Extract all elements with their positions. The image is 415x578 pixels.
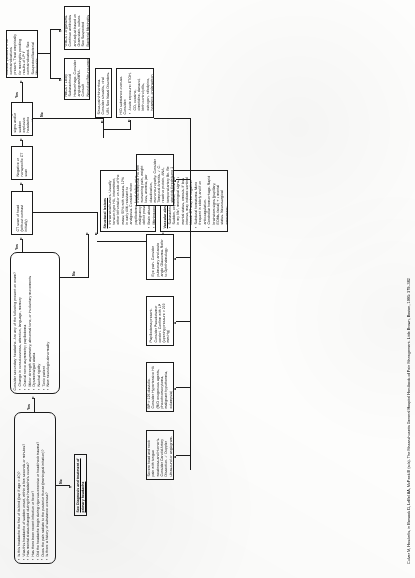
connector-meningeal-no (33, 118, 59, 119)
main-right-bus (190, 118, 191, 470)
primary-headache-link-text: See Diagnosis and treatment of primary h… (76, 458, 85, 513)
arrowhead-down (59, 79, 62, 81)
lumbar-puncture-box: Lumbar puncture if no contraindications … (6, 30, 38, 78)
figure-citation: Culver M, Hasderlis, in Borsook D, LeBel… (407, 8, 411, 564)
connector-ct-to-negative (22, 184, 23, 191)
structural-lesions-title: Structural lesions (103, 174, 107, 229)
secondary-exam-item: Motor strength asymmetry, abnormal tone,… (28, 256, 32, 387)
carotid-dissection-box: Severe head and neck pain with tongue we… (146, 430, 174, 480)
ct-scan-text: CT scan of head (without contrast initia… (16, 195, 29, 232)
branch-label-yes: Yes (27, 404, 31, 410)
substance-overuse-item: Acute exposure: ETOH, CO, cocaine, cimet… (128, 72, 154, 111)
connector-no-bus (59, 118, 103, 119)
ct-scan-box: CT scan of head (without contrast initia… (11, 191, 33, 235)
secondary-exam-item: Change in consciousness, attention, lang… (18, 256, 22, 387)
main-right-bus-riser (154, 118, 191, 119)
branch-label-yes: Yes (15, 92, 19, 98)
substance-overuse-title: H/O substance overuse. Consider: (119, 72, 128, 115)
branch-label-no: No (72, 271, 76, 276)
red-flag-item: Did the headache begin during vigorous e… (36, 416, 40, 557)
connector-ct-findings-bus-h (97, 212, 98, 234)
connector-lp-split-h (50, 29, 51, 79)
arrowhead-down (69, 486, 72, 488)
flowchart-canvas: Is this headache the first of its kind (… (0, 0, 415, 578)
wbcs-meningitis-box: WBCs ↓ organisms. Continue antibiotics a… (64, 6, 90, 50)
hypertensive-headache-text: BP > 125 diastolic. Consider Hypertensiv… (147, 366, 173, 409)
branch-label-no: No (40, 112, 44, 117)
ct-negative-text: Negative or nonspecific CT scan (16, 150, 29, 177)
substance-overuse-box: H/O substance overuse. Consider: Acute e… (116, 68, 154, 118)
red-flag-item: Was this headache of sudden onset, withi… (22, 416, 26, 557)
red-flag-item: Has mental status changed during the hea… (26, 416, 30, 557)
carotid-dissection-text: Severe head and neck pain with tongue we… (147, 434, 173, 477)
secondary-exam-item: Cranial nerve asymmetry; papilledema (23, 256, 27, 387)
connector-secondary-yes (22, 239, 23, 252)
meningeal-signs-text: Are meningeal signs and/or sudden explos… (11, 106, 33, 133)
arrowhead-right (20, 80, 22, 83)
papilledema-box: Papilledema present. Consider Pseudotumo… (146, 296, 174, 346)
meningeal-signs-decision: Are meningeal signs and/or sudden explos… (11, 102, 33, 136)
arrowhead-right (20, 182, 22, 185)
red-flag-item: Has there been recent infection or fever… (31, 416, 35, 557)
riser-carotid (176, 455, 190, 456)
glaucoma-text: Eye pain. Consider pulmonary and acute a… (151, 238, 168, 277)
sinus-pain-text: Sinus pain/rhinorrhea. Consider sinusiti… (97, 72, 110, 115)
scan-grain-overlay (0, 0, 415, 578)
hypertensive-headache-box: BP > 125 diastolic. Consider Hypertensiv… (146, 362, 174, 412)
secondary-exam-item: Dysmetria/gait ataxia (32, 256, 36, 387)
rbcs-sah-text: RBCs ↑ Likely Subarachnoid Hemorrhage. C… (64, 58, 90, 97)
connector-redflags-to-primary (56, 485, 70, 486)
wbcs-meningitis-text: WBCs ↓ organisms. Continue antibiotics a… (64, 10, 90, 47)
sinus-pain-box: Sinus pain/rhinorrhea. Consider sinusiti… (95, 68, 112, 118)
connector-secondary-no (60, 277, 88, 278)
temporal-arteritis-text: Age >60 w/ constant unilateral frontal-o… (136, 158, 174, 203)
vascular-item: Subdural hematoma. More frequent in elde… (194, 174, 207, 225)
vascular-item: Cerebellar hemorrhage. Rapid brainstem s… (207, 174, 228, 225)
connector-negative-to-meningeal (22, 140, 23, 146)
secondary-headache-title: Consider secondary headache. Are any of … (13, 256, 17, 391)
arrowhead-right (101, 120, 103, 123)
riser-papilledema (176, 321, 190, 322)
arrowhead-right (86, 232, 88, 235)
papilledema-text: Papilledema present. Consider Pseudotumo… (149, 300, 171, 343)
arrowhead-right (95, 232, 97, 235)
connector-secondary-no-h (88, 234, 89, 278)
riser-glaucoma (176, 257, 190, 258)
arrowhead-right (128, 119, 130, 122)
red-flag-item: Is there a history of substance overuse? (45, 416, 49, 557)
red-flag-item: Is this headache the first of its kind (… (17, 416, 21, 557)
connector-ct-findings-bus (33, 212, 97, 213)
secondary-exam-item: Nuchal rigidity (37, 256, 41, 387)
secondary-exam-item: Toxic patient (42, 256, 46, 387)
red-flags-question-box: Is this headache the first of its kind (… (14, 412, 56, 564)
glaucoma-box: Eye pain. Consider pulmonary and acute a… (146, 234, 174, 280)
connector-no-bus-substance (103, 129, 131, 130)
riser-hypertensive (176, 387, 190, 388)
connector-meningeal-yes (22, 82, 23, 102)
connector-lp-split (38, 53, 50, 54)
temporal-arteritis-box: Age >60 w/ constant unilateral frontal-o… (136, 154, 174, 206)
connector-redflags-to-secondary (34, 398, 35, 412)
red-flag-item: Does the pain radiate to the posterior t… (41, 416, 45, 557)
lumbar-puncture-text: Lumbar puncture if no contraindications … (6, 34, 38, 75)
arrowhead-down (59, 30, 62, 32)
riser-temporal-arteritis (176, 179, 190, 180)
arrowhead-right (20, 138, 22, 141)
arrowhead-right (20, 237, 22, 240)
primary-headache-link[interactable]: See Diagnosis and treatment of primary h… (74, 454, 87, 516)
branch-label-no: No (59, 479, 63, 484)
rotated-page-canvas: Is this headache the first of its kind (… (0, 0, 415, 578)
secondary-headache-exam-box: Consider secondary headache. Are any of … (10, 252, 60, 394)
branch-label-yes: Yes (15, 244, 19, 250)
secondary-exam-item: New neurologic abnormality (46, 256, 50, 387)
ct-negative-decision: Negative or nonspecific CT scan (11, 146, 33, 180)
rbcs-sah-box: RBCs ↑ Likely Subarachnoid Hemorrhage. C… (64, 58, 90, 100)
arrowhead-right (32, 396, 34, 399)
